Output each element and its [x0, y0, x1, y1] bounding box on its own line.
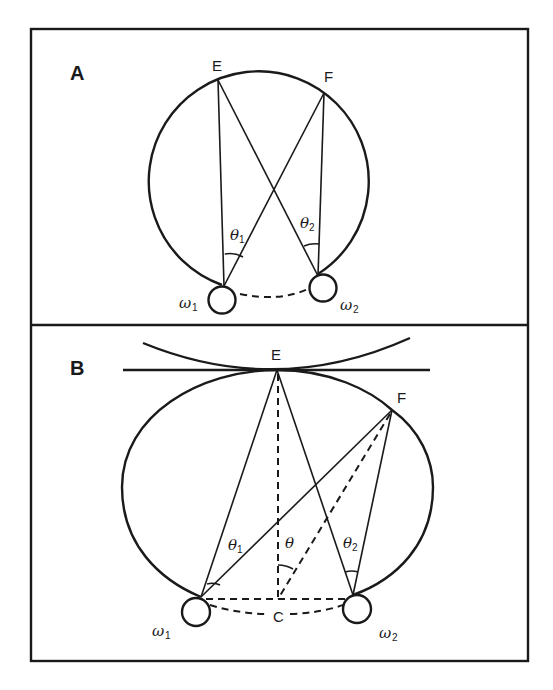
- panel-b-label: B: [70, 357, 84, 379]
- theta1-subscript: 1: [239, 234, 245, 245]
- omega1-subscript: 1: [192, 302, 198, 313]
- omega2-subscript: 2: [392, 632, 398, 643]
- line-e-omega2: [277, 370, 353, 595]
- panel-a: A E F θ 1 θ 2 ω 1 ω 2: [70, 57, 369, 315]
- theta1-label: θ: [228, 536, 237, 554]
- theta2-label: θ: [343, 534, 352, 552]
- omega2-source-circle: [343, 595, 371, 623]
- line-e-omega2: [218, 80, 318, 276]
- panel-b: B E F C θ 1 θ θ 2 ω 1 ω: [70, 338, 433, 643]
- dashed-f-c: [278, 414, 390, 599]
- theta2-subscript: 2: [309, 222, 315, 233]
- omega2-source-circle: [310, 275, 337, 302]
- theta-angle-arc: [278, 565, 293, 569]
- line-e-omega1: [218, 80, 224, 286]
- line-f-omega2: [353, 410, 392, 595]
- theta2-angle-arc: [304, 244, 319, 246]
- theta1-label: θ: [230, 226, 239, 244]
- omega2-label: ω: [379, 624, 391, 642]
- point-f-label: F: [397, 389, 406, 406]
- theta-label: θ: [285, 534, 294, 552]
- dashed-arc-right: [290, 604, 346, 614]
- theta2-angle-arc: [345, 571, 358, 572]
- panel-a-circle-arc: [149, 71, 369, 285]
- omega1-label: ω: [179, 294, 191, 312]
- omega1-source-circle: [182, 598, 210, 626]
- point-c-label: C: [273, 608, 284, 625]
- omega2-label: ω: [340, 296, 352, 314]
- theta1-subscript: 1: [237, 544, 243, 555]
- line-f-omega2: [318, 93, 324, 276]
- omega2-subscript: 2: [353, 304, 359, 315]
- omega1-subscript: 1: [165, 630, 171, 641]
- omega1-label: ω: [152, 622, 164, 640]
- dashed-arc-left: [210, 605, 268, 614]
- line-e-omega1: [201, 370, 277, 597]
- omega1-omega2-dashed-arc: [240, 289, 308, 297]
- point-e-label: E: [212, 57, 222, 74]
- theta2-subscript: 2: [352, 542, 358, 553]
- figure-frame: [31, 29, 528, 661]
- theta2-label: θ: [300, 214, 309, 232]
- point-f-label: F: [324, 68, 333, 85]
- diagram-canvas: A E F θ 1 θ 2 ω 1 ω 2 B: [0, 0, 553, 690]
- omega1-source-circle: [209, 287, 236, 314]
- panel-a-label: A: [70, 62, 84, 84]
- point-e-label: E: [271, 346, 281, 363]
